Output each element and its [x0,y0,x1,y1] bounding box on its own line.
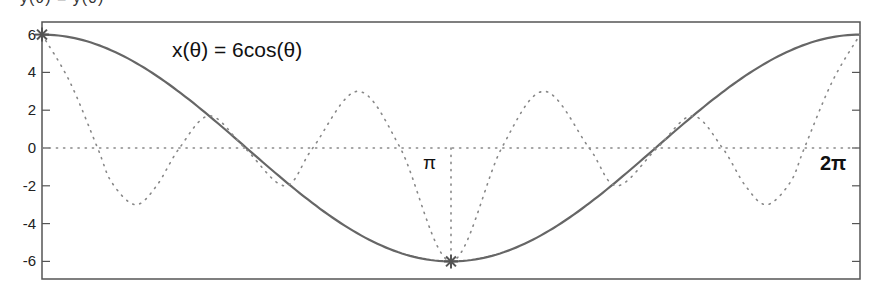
y-tick-label: -2 [23,177,36,194]
y-tick-label: 4 [28,63,36,80]
y-tick-label: 6 [28,26,36,43]
asterisk-marker-icon [35,28,49,42]
y-tick-label: -6 [23,252,36,269]
y-tick-label: 2 [28,101,36,118]
chart-canvas: 6420-2-4-6 x(θ) = 6cos(θ)π2π [0,0,881,302]
annotation-label: x(θ) = 6cos(θ) [172,38,302,61]
annotation-label: 2π [820,152,846,174]
annotation-label: π [423,152,436,173]
plot-border [42,22,860,279]
asterisk-marker-icon [444,254,458,268]
plot-frame [42,22,860,279]
series-layer [42,35,860,262]
y-tick-label: 0 [28,139,36,156]
annotation-layer: x(θ) = 6cos(θ)π2π [172,38,846,174]
y-tick-label: -4 [23,215,36,232]
